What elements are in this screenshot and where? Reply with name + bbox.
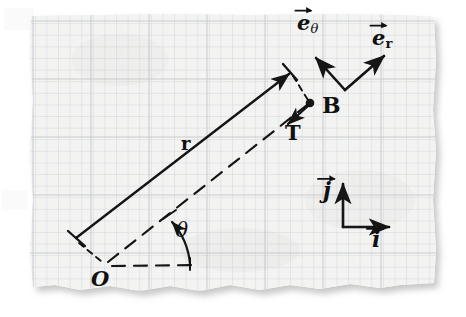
label-radius-text: r [181,133,190,154]
label-tension-text: T [285,120,301,145]
background-artifacts [2,8,34,210]
grid-lines [26,10,442,296]
label-e-r-subscript: r [385,36,392,51]
label-e-r: e r [372,27,392,50]
label-origin-text: O [91,266,109,291]
label-j-vector-group: j [323,179,331,201]
label-e-theta: e θ [297,12,318,35]
label-e-theta-base: e [297,10,310,35]
graph-paper-sheet [0,0,466,317]
label-j-hat: j [323,179,331,201]
label-i-text: i [372,226,380,252]
label-origin: O [91,268,109,289]
label-e-r-base: e [372,25,385,50]
label-e-theta-vector-group: e [297,12,310,33]
label-angle-theta: θ [176,220,188,240]
label-e-r-vector-group: e [372,27,385,48]
label-i-vector-group: i [372,228,380,250]
label-j-text: j [323,177,331,203]
label-tension: T [285,122,301,143]
label-point-b-text: B [322,92,341,118]
label-point-b: B [322,94,341,116]
label-e-theta-subscript: θ [310,21,318,36]
figure-canvas: O r θ B T e θ [0,0,466,317]
label-i-hat: i [372,228,380,250]
label-angle-text: θ [176,218,188,242]
label-radius: r [181,135,190,153]
diagram-svg [0,0,466,317]
